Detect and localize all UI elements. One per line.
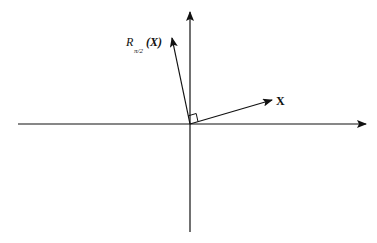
vector-rotated [172,38,190,124]
diagram-canvas: X R π/2 (X) [0,0,377,243]
rotated-vector-label-argument: (X) [146,35,162,49]
rotated-vector-label-prefix: R [125,35,134,49]
rotated-vector-label-subscript: π/2 [134,47,143,55]
vector-x-label: X [276,94,285,108]
vector-x [190,100,272,124]
